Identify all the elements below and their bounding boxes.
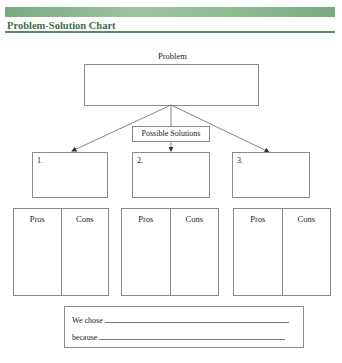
- we-chose-blank[interactable]: [105, 314, 289, 323]
- pros-cons-table-2: Pros Cons: [121, 208, 219, 296]
- we-chose-row: We chose: [72, 314, 289, 325]
- because-row: because: [72, 331, 285, 342]
- possible-solutions-box: Possible Solutions: [132, 126, 210, 142]
- pros-cons-table-3: Pros Cons: [233, 208, 331, 296]
- cons-column[interactable]: Cons: [282, 209, 331, 295]
- we-chose-label: We chose: [72, 316, 103, 325]
- because-label: because: [72, 333, 97, 342]
- solution-number: 2.: [137, 156, 143, 165]
- solution-number: 3.: [237, 156, 243, 165]
- pros-column[interactable]: Pros: [14, 209, 61, 295]
- cons-column[interactable]: Cons: [170, 209, 219, 295]
- cons-column[interactable]: Cons: [61, 209, 109, 295]
- pros-column[interactable]: Pros: [122, 209, 170, 295]
- because-blank[interactable]: [99, 331, 285, 340]
- solution-number: 1.: [37, 156, 43, 165]
- solution-box-3[interactable]: 3.: [232, 152, 310, 198]
- solution-box-1[interactable]: 1.: [32, 152, 108, 198]
- solution-box-2[interactable]: 2.: [132, 152, 210, 198]
- conclusion-box: We chose because: [64, 306, 304, 348]
- pros-cons-table-1: Pros Cons: [13, 208, 109, 296]
- pros-column[interactable]: Pros: [234, 209, 282, 295]
